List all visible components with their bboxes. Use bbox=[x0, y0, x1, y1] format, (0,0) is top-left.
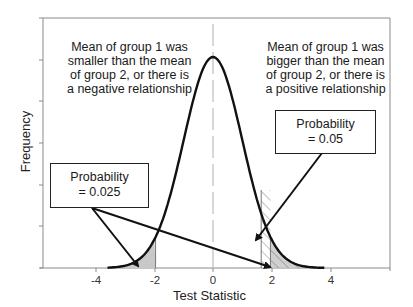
callout-line: Probability bbox=[51, 170, 148, 185]
x-axis-label: Test Statistic bbox=[173, 288, 246, 303]
note-line: smaller than the mean bbox=[52, 54, 207, 68]
note-line: of group 2, or there is bbox=[52, 68, 207, 82]
note-line: of group 2, or there is bbox=[248, 68, 403, 82]
note-line: bigger than the mean bbox=[248, 54, 403, 68]
callout-line: Probability bbox=[276, 117, 375, 132]
x-axis-ticks bbox=[96, 268, 331, 272]
x-tick-label: 2 bbox=[257, 274, 287, 286]
positive-relationship-note: Mean of group 1 was bigger than the mean… bbox=[248, 40, 403, 96]
note-line: a negative relationship bbox=[52, 82, 207, 96]
y-axis-label: Frequency bbox=[18, 107, 33, 177]
x-tick-label: 4 bbox=[316, 274, 346, 286]
probability-0025-callout: Probability = 0.025 bbox=[50, 163, 149, 208]
note-line: Mean of group 1 was bbox=[52, 40, 207, 54]
arrow-left-tail bbox=[92, 208, 138, 266]
probability-005-callout: Probability = 0.05 bbox=[275, 110, 376, 154]
note-line: Mean of group 1 was bbox=[248, 40, 403, 54]
arrow-right-tail bbox=[92, 208, 270, 267]
negative-relationship-note: Mean of group 1 was smaller than the mea… bbox=[52, 40, 207, 96]
x-tick-label: 0 bbox=[198, 274, 228, 286]
callout-line: = 0.05 bbox=[276, 132, 375, 147]
y-axis-ticks bbox=[39, 18, 43, 268]
x-tick-label: -4 bbox=[81, 274, 111, 286]
callout-line: = 0.025 bbox=[51, 185, 148, 200]
note-line: a positive relationship bbox=[248, 82, 403, 96]
x-tick-label: -2 bbox=[140, 274, 170, 286]
